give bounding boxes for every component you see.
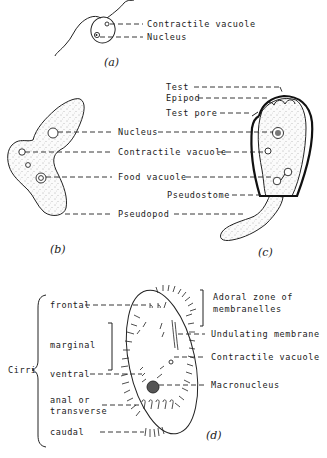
label-test-pore-c: Test pore — [166, 108, 217, 118]
ventral-cirri — [137, 322, 164, 382]
cell-body-a — [88, 14, 119, 46]
marginal-bracket — [108, 323, 112, 370]
macronucleus-d — [147, 381, 159, 393]
caption-a: (a) — [104, 56, 119, 69]
caption-d: (d) — [206, 429, 222, 442]
food-vacuole-c1 — [284, 168, 292, 176]
label-macronucleus: Macronucleus — [211, 380, 280, 390]
label-anal-or: anal or — [50, 395, 90, 405]
label-cirri: Cirri — [8, 365, 37, 375]
label-pseudopod-b: Pseudopod — [118, 209, 169, 219]
label-contractile-vacuole-b: Contractile vacuole — [118, 147, 227, 157]
label-epipod-c: Epipod — [166, 93, 200, 103]
marginal-cirri-right — [175, 314, 195, 407]
panel-c: Test Epipod Test pore Pseudostome (c) — [158, 82, 312, 259]
nucleolus-a — [96, 34, 98, 36]
marginal-cirri-left — [121, 315, 140, 416]
contractile-vacuole-d — [169, 360, 173, 364]
label-marginal: marginal — [50, 340, 96, 350]
label-ventral: ventral — [50, 369, 90, 379]
nucleus-b — [48, 128, 58, 138]
label-transverse: transverse — [50, 406, 107, 416]
nucleus-chromatin-c — [275, 130, 281, 136]
caption-c: (c) — [258, 246, 273, 259]
adoral-membranelles — [156, 285, 196, 311]
panel-d: Cirri — [8, 284, 320, 447]
label-nucleus-b: Nucleus — [118, 127, 158, 137]
cell-body-b — [8, 99, 84, 216]
label-undulating-membrane: Undulating membrane — [211, 329, 320, 339]
panel-b: Nucleus Contractile vacuole Food vacuole… — [8, 99, 227, 256]
protozoa-diagram: Contractile vacuole Nucleus (a) Nucleus … — [0, 0, 327, 458]
food-vacuole-c2 — [273, 177, 281, 185]
flagellum-front — [107, 0, 134, 18]
label-caudal: caudal — [50, 427, 84, 437]
food-vacuole-inner-b — [39, 176, 44, 181]
pseudopod-c — [220, 195, 283, 241]
frontal-cirri — [150, 302, 166, 308]
label-nucleus-a: Nucleus — [147, 32, 187, 42]
label-adoral-zone: Adoral zone of — [213, 292, 293, 302]
test-pore-c — [252, 112, 258, 116]
contractile-vacuole-a — [105, 22, 109, 26]
label-test-c: Test — [166, 82, 189, 92]
small-vacuole-b — [26, 163, 31, 168]
label-membranelles: membranelles — [213, 304, 282, 314]
label-frontal: frontal — [50, 300, 90, 310]
label-contractile-vacuole-a: Contractile vacuole — [147, 19, 256, 29]
adoral-bracket — [200, 290, 203, 326]
panel-a: Contractile vacuole Nucleus (a) — [55, 0, 256, 69]
label-pseudostome-c: Pseudostome — [167, 190, 230, 200]
cell-body-d — [115, 284, 210, 441]
caption-b: (b) — [50, 243, 66, 256]
label-food-vacuole-b: Food vacuole — [118, 172, 187, 182]
undulating-membrane — [172, 320, 178, 350]
contractile-vacuole-b — [19, 149, 25, 155]
cytoplasm-c — [258, 98, 306, 196]
transverse-cirri — [142, 400, 173, 409]
caudal-cirri — [145, 427, 164, 437]
leader-line — [280, 87, 283, 94]
label-contractile-vacuole-d: Contractile vacuole — [211, 352, 320, 362]
contractile-vacuole-c — [265, 148, 271, 154]
